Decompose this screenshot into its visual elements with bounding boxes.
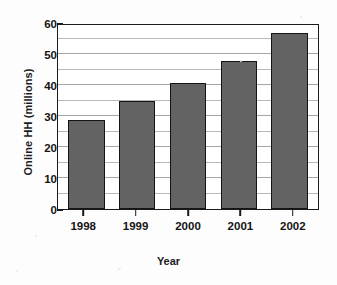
x-tick-label-1998: 1998 [53, 220, 113, 232]
scan-speck-4 [35, 235, 37, 237]
scan-speck-2 [300, 16, 302, 18]
y-tick-label-40: 40 [27, 80, 57, 92]
x-tick-label-2002: 2002 [263, 220, 323, 232]
x-tick-label-1999: 1999 [106, 220, 166, 232]
scan-speck-1 [118, 268, 121, 270]
x-tick-mark-1998 [82, 210, 84, 216]
bar-1998 [68, 120, 105, 209]
x-tick-mark-2001 [240, 210, 242, 216]
scan-speck-0 [16, 270, 18, 272]
y-tick-label-50: 50 [27, 49, 57, 61]
bar-slot-2002 [264, 25, 315, 209]
x-axis-title: Year [0, 255, 337, 267]
plot-area [57, 24, 319, 210]
x-tick-label-2000: 2000 [158, 220, 218, 232]
bar-chart-figure: Online HH (millions) 0102030405060 19981… [0, 0, 337, 285]
scan-speck-3 [240, 60, 242, 62]
y-tick-label-10: 10 [27, 173, 57, 185]
x-tick-mark-1999 [135, 210, 137, 216]
y-axis-ticks: 0102030405060 [18, 24, 57, 210]
x-tick-label-2001: 2001 [210, 220, 270, 232]
bar-2001 [221, 61, 258, 209]
bar-series [58, 25, 318, 209]
y-tick-label-60: 60 [27, 18, 57, 30]
x-tick-mark-2002 [292, 210, 294, 216]
bar-slot-2001 [213, 25, 264, 209]
y-tick-label-30: 30 [27, 111, 57, 123]
x-axis-ticks: 19981999200020012002 [57, 210, 319, 250]
bar-slot-1998 [61, 25, 112, 209]
bar-slot-1999 [112, 25, 163, 209]
bar-slot-2000 [163, 25, 214, 209]
x-tick-mark-2000 [187, 210, 189, 216]
y-tick-label-20: 20 [27, 142, 57, 154]
bar-2002 [271, 33, 308, 209]
bar-2000 [170, 83, 207, 209]
bar-1999 [119, 101, 156, 210]
y-tick-label-0: 0 [27, 204, 57, 216]
